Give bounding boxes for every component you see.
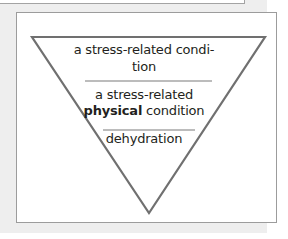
level-3-label: dehydration <box>0 131 288 147</box>
level-1-line-1: a stress-related condi- <box>0 42 288 58</box>
level-2-bold-word: physical <box>84 103 143 118</box>
level-2-rest: condition <box>142 103 204 118</box>
level-2-line-1: a stress-related <box>0 87 288 103</box>
inverted-triangle <box>0 0 288 239</box>
level-1-line-2: tion <box>0 59 288 75</box>
level-2-line-2: physical condition <box>0 103 288 119</box>
